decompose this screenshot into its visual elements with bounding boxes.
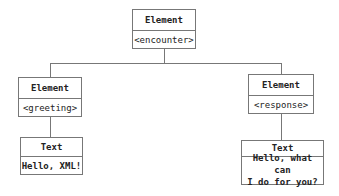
text-node-right: Text Hello, what can I do for you? — [241, 140, 324, 185]
node-value: <greeting> — [19, 99, 81, 117]
root-stem — [164, 48, 165, 63]
node-value: <encounter> — [133, 31, 195, 49]
left-branch — [50, 63, 51, 77]
node-value: Hello, what can I do for you? — [242, 157, 323, 185]
right-branch — [281, 63, 282, 74]
node-greeting: Element <greeting> — [18, 77, 82, 117]
horizontal-connector — [50, 63, 282, 64]
left-child-stem — [50, 116, 51, 137]
node-response: Element <response> — [248, 74, 314, 114]
node-type-label: Text — [21, 138, 82, 157]
node-type-label: Element — [19, 78, 81, 99]
right-child-stem — [281, 113, 282, 140]
text-node-left: Text Hello, XML! — [20, 137, 83, 175]
node-type-label: Element — [249, 75, 313, 96]
node-type-label: Element — [133, 10, 195, 31]
node-value: <response> — [249, 96, 313, 114]
node-encounter: Element <encounter> — [132, 9, 196, 49]
node-value: Hello, XML! — [21, 157, 82, 175]
